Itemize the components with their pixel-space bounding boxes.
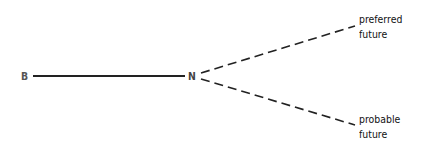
label-probable-line2: future — [359, 127, 400, 142]
label-probable-future: probable future — [359, 112, 400, 142]
node-b: B — [21, 71, 28, 82]
label-probable-line1: probable — [359, 112, 400, 127]
label-preferred-future: preferred future — [359, 12, 402, 42]
label-preferred-line2: future — [359, 27, 402, 42]
dashed-edge-to-probable — [201, 79, 355, 125]
dashed-edge-to-preferred — [201, 26, 355, 73]
node-n: N — [188, 71, 196, 82]
label-preferred-line1: preferred — [359, 12, 402, 27]
